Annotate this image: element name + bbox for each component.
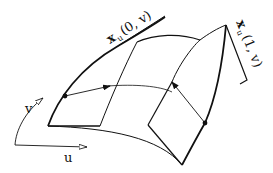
axis-v-label: v [24, 101, 33, 116]
middle-curve [108, 85, 172, 92]
point-right [203, 121, 208, 126]
point-left [63, 94, 68, 99]
boundary-curve-u1 [182, 25, 226, 165]
right-patch-inner-curve [172, 25, 226, 82]
axis-u [15, 145, 87, 147]
tangent-vector-left-arrow [65, 86, 110, 96]
label-xu-0-v-args: (0, v) [117, 7, 154, 38]
label-xu-1-v: x u (1, v) [231, 18, 266, 71]
right-patch-bottom-edge [148, 125, 182, 165]
label-xu-1-v-args: (1, v) [239, 32, 266, 69]
surface-patch-diagram: v u x u (0, v) x u (1, v) [0, 0, 273, 173]
boundary-curve-v1 [137, 35, 200, 42]
axis-u-label: u [64, 150, 72, 165]
tangent-vector-right-arrow [172, 82, 205, 123]
